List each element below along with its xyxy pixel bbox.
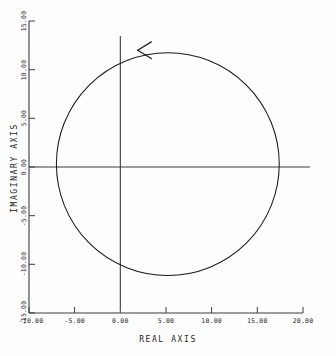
plot-canvas [0,0,336,356]
y-tick-label-10: 10.00 [21,59,28,80]
origin-reference-lines [29,36,310,308]
y-axis-title: IMAGINARY AXIS [11,123,19,213]
x-tick-label-15: 15.00 [247,318,268,325]
y-tick-label--5: -5.00 [21,205,28,226]
y-tick-label-15: 15.00 [21,11,28,32]
y-tick-label--15: -15.00 [21,301,28,326]
x-tick-label-10: 10.00 [201,318,222,325]
nyquist-chart: -10.00 -5.00 0.00 5.00 10.00 15.00 20.00… [0,0,336,356]
x-tick-label-0: 0.00 [112,318,128,325]
x-tick-label--5: -5.00 [64,318,85,325]
x-tick-label-5: 5.00 [158,318,174,325]
x-axis-ticks [29,307,303,313]
x-tick-label-20: 20.00 [293,318,314,325]
nyquist-circle-curve [56,53,279,276]
y-tick-label--10: -10.00 [21,252,28,277]
y-tick-label-5: 5.00 [21,110,28,126]
x-axis-title: REAL AXIS [139,336,197,344]
y-tick-label-0: 0.00 [21,159,28,175]
